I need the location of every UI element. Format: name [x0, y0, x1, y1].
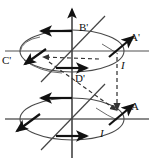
dashed-diagonal-up	[43, 57, 99, 59]
label-current-lower: I	[100, 128, 104, 139]
label-b-prime: B'	[79, 22, 88, 33]
dashed-diagonal-down	[49, 62, 116, 110]
label-a: A	[131, 101, 139, 112]
label-d-prime: D'	[75, 73, 85, 84]
physics-diagram-figure: B' A' C' D' A I I	[0, 0, 154, 161]
label-current-upper: I	[121, 60, 125, 71]
label-c-prime: C'	[2, 55, 11, 66]
label-a-prime: A'	[130, 32, 140, 43]
arc-upper-left	[20, 37, 40, 52]
